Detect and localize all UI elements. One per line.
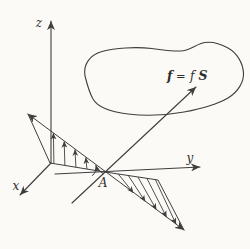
y-axis-label: y [186, 151, 194, 165]
vector-f-symbol: f [166, 68, 175, 83]
y-axis [55, 167, 200, 174]
hatch-line [128, 176, 145, 202]
diagram-canvas: z y x A f = f S [0, 0, 250, 249]
surface-outline [85, 42, 244, 115]
hatch-line [75, 149, 76, 167]
vector-s-symbol: S [199, 68, 208, 83]
vector-area-figure: z y x A f = f S [0, 0, 250, 249]
hatch-line [138, 177, 157, 210]
hatch-line [53, 133, 54, 164]
x-axis-label: x [13, 179, 20, 193]
x-axis [20, 163, 51, 195]
hatch-line [64, 141, 65, 165]
point-a-label: A [98, 176, 108, 190]
vector-equation-label: f = f S [166, 68, 208, 83]
equals-sign: = [176, 69, 186, 83]
z-axis-label: z [35, 16, 43, 30]
vector-f-arrow [72, 87, 196, 203]
hatch-line [86, 158, 87, 170]
scalar-f-symbol: f [189, 69, 197, 83]
